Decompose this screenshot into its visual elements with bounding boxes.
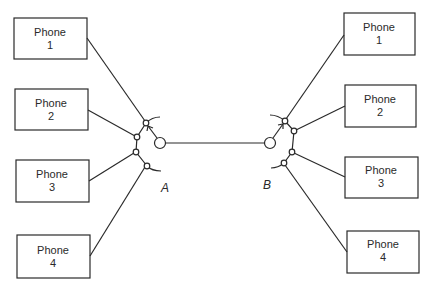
switch-a-arc [136,123,147,166]
switch-b-contact-3 [289,149,295,155]
right-phone-4-label: Phone [367,238,399,250]
left-phone-1-number: 1 [47,39,53,51]
switch-b-contact-1 [282,118,288,124]
right-line-2 [296,106,345,130]
switch-a-contact-3 [133,149,139,155]
switch-b-label: B [263,178,271,192]
right-phone-1-label: Phone [363,21,395,33]
switch-b-pivot [265,138,276,149]
left-phone-3-number: 3 [49,181,55,193]
left-line-2 [88,110,135,136]
switch-b-contact-2 [291,128,297,134]
switch-a-pivot [155,138,166,149]
switch-a-label: A [160,181,169,195]
left-line-3 [89,153,134,181]
switch-a-contact-4 [144,163,150,169]
right-line-3 [294,153,345,177]
switch-b-wiper [273,124,283,138]
switch-b-contact-4 [281,160,287,166]
switching-diagram: Phone 1 Phone 2 Phone 3 Phone 4 Phone 1 … [0,0,431,289]
switch-a-contact-1 [143,120,149,126]
left-phone-1-label: Phone [34,26,66,38]
left-line-4 [90,167,145,256]
right-phone-1-number: 1 [376,34,382,46]
left-phone-2-label: Phone [35,97,67,109]
left-phone-4-number: 4 [50,257,56,269]
switch-a-contact-2 [134,134,140,140]
left-phone-2-number: 2 [48,110,54,122]
right-phone-4-number: 4 [380,251,386,263]
right-phone-3-label: Phone [365,164,397,176]
left-phone-3-label: Phone [36,168,68,180]
right-line-4 [285,165,347,252]
right-phone-3-number: 3 [378,177,384,189]
right-line-1 [286,35,344,119]
switch-b-arc [284,121,294,163]
left-phone-4-label: Phone [37,244,69,256]
left-line-1 [87,38,145,121]
right-phone-2-label: Phone [364,93,396,105]
right-phone-2-number: 2 [377,106,383,118]
